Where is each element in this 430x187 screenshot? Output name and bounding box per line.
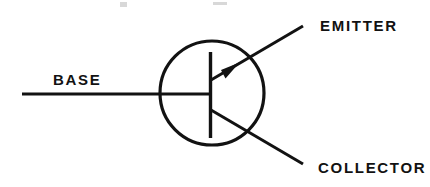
transistor-symbol-canvas: NPN Bipolar Junction Transistor Schemati…: [0, 0, 430, 187]
base-label: BASE: [53, 71, 101, 88]
scan-artifact-group: [120, 2, 227, 7]
transistor-diagram: NPN Bipolar Junction Transistor Schemati…: [0, 0, 430, 187]
scan-speck: [120, 2, 127, 7]
scan-speck: [213, 2, 227, 5]
collector-label: COLLECTOR: [318, 159, 426, 176]
emitter-arrow-icon: [221, 63, 240, 79]
emitter-label: EMITTER: [320, 17, 398, 34]
